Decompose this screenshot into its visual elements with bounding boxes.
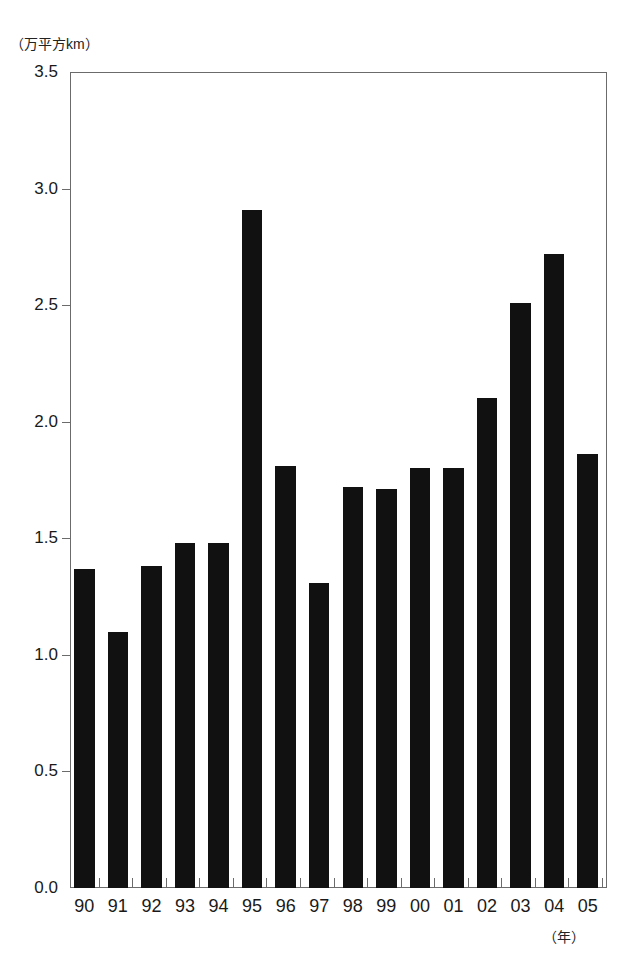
x-axis-tick-mark	[367, 878, 368, 888]
bar	[141, 566, 162, 888]
x-axis-tick-mark	[199, 878, 200, 888]
x-axis-tick-label: 93	[175, 896, 195, 917]
bar-column	[343, 72, 364, 888]
bar	[208, 543, 229, 888]
x-axis-tick-label: 94	[209, 896, 229, 917]
y-axis-label-group: 0.00.51.01.52.02.53.03.5	[0, 0, 58, 972]
bar	[410, 468, 431, 888]
bar-column	[544, 72, 565, 888]
bar-series	[70, 72, 607, 888]
bar	[175, 543, 196, 888]
x-axis-tick-label: 03	[511, 896, 531, 917]
x-axis-tick-mark	[132, 878, 133, 888]
bar-column	[477, 72, 498, 888]
bar-column	[275, 72, 296, 888]
x-axis-tick-mark	[401, 878, 402, 888]
bar	[343, 487, 364, 888]
x-axis-tick-label: 96	[276, 896, 296, 917]
bar	[242, 210, 263, 888]
x-axis-tick-label: 99	[376, 896, 396, 917]
y-axis-tick-label: 2.0	[10, 412, 58, 432]
bar-column	[510, 72, 531, 888]
x-axis-tick-mark	[501, 878, 502, 888]
x-axis-tick-label: 04	[544, 896, 564, 917]
x-axis-tick-label: 05	[578, 896, 598, 917]
y-axis-tick-label: 2.5	[10, 295, 58, 315]
page-title	[12, 0, 622, 6]
bar-column	[376, 72, 397, 888]
x-axis-tick-mark	[300, 878, 301, 888]
x-axis-tick-mark	[568, 878, 569, 888]
x-axis-tick-label: 92	[141, 896, 161, 917]
x-axis-label-group: 90919293949596979899000102030405	[70, 896, 607, 926]
bar-column	[242, 72, 263, 888]
y-axis-tick-label: 0.5	[10, 761, 58, 781]
x-axis-tick-mark	[266, 878, 267, 888]
x-axis-unit-label: （年）	[543, 926, 585, 946]
bar	[376, 489, 397, 888]
x-axis-tick-mark	[166, 878, 167, 888]
bar-column	[577, 72, 598, 888]
bar-column	[74, 72, 95, 888]
x-axis-tick-mark	[434, 878, 435, 888]
y-axis-tick-label: 3.0	[10, 179, 58, 199]
bar-column	[108, 72, 129, 888]
bar	[544, 254, 565, 888]
x-axis-tick-mark	[99, 878, 100, 888]
x-axis-tick-mark	[233, 878, 234, 888]
bar-column	[175, 72, 196, 888]
x-axis-tick-label: 91	[108, 896, 128, 917]
y-axis-tick-label: 1.5	[10, 528, 58, 548]
y-axis-tick-label: 3.5	[10, 62, 58, 82]
x-axis-tick-mark	[602, 878, 603, 888]
bar-column	[208, 72, 229, 888]
bar	[577, 454, 598, 888]
bar	[108, 632, 129, 888]
bar-column	[309, 72, 330, 888]
x-axis-tick-label: 97	[309, 896, 329, 917]
x-axis-tick-label: 00	[410, 896, 430, 917]
x-axis-tick-label: 95	[242, 896, 262, 917]
x-axis-tick-mark	[535, 878, 536, 888]
x-axis-tick-label: 98	[343, 896, 363, 917]
bar	[443, 468, 464, 888]
bar-column	[141, 72, 162, 888]
bar	[309, 583, 330, 888]
y-axis-tick-label: 1.0	[10, 645, 58, 665]
bar	[510, 303, 531, 888]
bar	[74, 569, 95, 888]
bar	[477, 398, 498, 888]
bar-column	[410, 72, 431, 888]
x-axis-tick-label: 02	[477, 896, 497, 917]
x-axis-tick-label: 90	[74, 896, 94, 917]
y-axis-tick-label: 0.0	[10, 878, 58, 898]
x-axis-tick-label: 01	[443, 896, 463, 917]
bar-column	[443, 72, 464, 888]
bar	[275, 466, 296, 888]
x-axis-tick-mark	[468, 878, 469, 888]
x-axis-tick-mark	[334, 878, 335, 888]
